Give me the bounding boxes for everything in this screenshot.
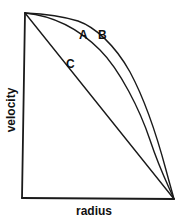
x-axis-label: radius xyxy=(76,204,112,218)
curve-a-label: A xyxy=(79,28,88,42)
velocity-radius-diagram: A B C radius velocity xyxy=(0,0,184,221)
y-axis xyxy=(22,13,25,198)
curve-b-label: B xyxy=(98,28,107,42)
curve-c-label: C xyxy=(66,57,75,71)
x-axis xyxy=(22,198,174,199)
y-axis-label: velocity xyxy=(4,87,18,132)
